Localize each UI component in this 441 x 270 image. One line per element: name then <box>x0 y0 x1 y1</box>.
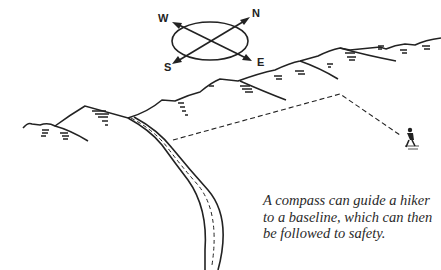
road <box>128 117 223 270</box>
caption: A compass can guide a hiker to a baselin… <box>263 192 438 242</box>
compass-label-north: N <box>252 7 260 19</box>
compass-label-west: W <box>158 12 169 24</box>
compass-label-east: E <box>257 56 264 68</box>
compass-label-south: S <box>164 61 171 73</box>
compass-icon <box>172 17 252 64</box>
dashed-route <box>173 94 400 140</box>
hiker-icon <box>405 128 419 149</box>
mountain-ridge <box>23 38 441 141</box>
